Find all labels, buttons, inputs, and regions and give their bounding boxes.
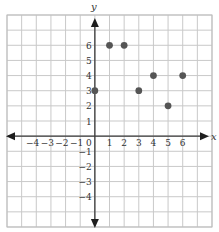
x-axis-right-arrow-icon	[200, 132, 209, 140]
data-point	[121, 42, 128, 49]
x-tick-label: 1	[107, 138, 113, 148]
y-tick-label: 2	[86, 101, 92, 111]
data-point	[150, 72, 157, 79]
data-point	[179, 72, 186, 79]
coordinate-plane-chart: x y −4−3−2−10123456654321−1−2−3−4	[0, 0, 219, 232]
y-tick-label: −4	[79, 192, 93, 202]
data-point	[135, 87, 142, 94]
axes: x y	[6, 1, 217, 228]
data-point	[165, 102, 172, 109]
data-point	[91, 87, 98, 94]
x-tick-label: 5	[165, 138, 171, 148]
y-tick-label: 3	[86, 86, 92, 96]
y-tick-label: −2	[79, 162, 92, 172]
x-tick-label: 2	[121, 138, 127, 148]
y-tick-label: 1	[86, 117, 92, 127]
y-tick-label: 6	[86, 41, 92, 51]
y-tick-label: 5	[86, 56, 92, 66]
x-tick-label: −4	[26, 138, 40, 148]
x-axis-title: x	[211, 131, 217, 142]
x-tick-label: −2	[55, 138, 68, 148]
x-tick-label: 3	[136, 138, 142, 148]
x-tick-label: −3	[41, 138, 55, 148]
tick-labels: −4−3−2−10123456654321−1−2−3−4	[26, 41, 186, 202]
x-tick-label: 6	[180, 138, 186, 148]
data-point	[106, 42, 113, 49]
y-tick-label: −1	[79, 147, 92, 157]
x-tick-label: 4	[151, 138, 157, 148]
y-axis-up-arrow-icon	[91, 18, 99, 27]
y-tick-label: −3	[79, 177, 93, 187]
y-axis-title: y	[90, 1, 97, 12]
y-tick-label: 4	[86, 71, 92, 81]
